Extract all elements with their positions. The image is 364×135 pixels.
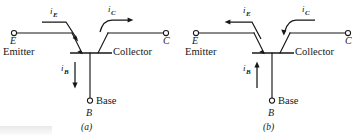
- collector-slant-b: [280, 33, 290, 53]
- diagram-panel-a: iE iC iB E Emitter C Collector Base B (a…: [0, 0, 182, 135]
- panel-caption-b: (b): [263, 122, 274, 133]
- base-terminal-circle-a: [87, 98, 92, 103]
- collector-letter-b: C: [345, 35, 352, 46]
- diagram-panel-b: iE iC iB E Emitter C Collector Base B (b…: [182, 0, 364, 135]
- current-arrowhead-ie-b: [225, 19, 231, 24]
- current-subscript-ic-b: C: [305, 9, 310, 17]
- current-arrow-ie-a: [42, 22, 77, 39]
- current-arrow-ic-b: [285, 20, 315, 31]
- current-subscript-ie-b: E: [245, 10, 251, 18]
- base-word-a: Base: [96, 95, 117, 106]
- page-edge-artifact: [0, 126, 52, 135]
- current-subscript-ib-a: B: [63, 68, 69, 76]
- emitter-word-a: Emitter: [3, 46, 35, 57]
- panel-a-svg: iE iC iB E Emitter C Collector Base B (a…: [0, 0, 182, 135]
- base-letter-a: B: [86, 107, 92, 118]
- panel-b-svg: iE iC iB E Emitter C Collector Base B (b…: [182, 0, 364, 135]
- base-letter-b: B: [268, 107, 274, 118]
- emitter-word-b: Emitter: [185, 46, 217, 57]
- current-arrowhead-ib-b: [254, 62, 259, 68]
- transistor-current-figure: iE iC iB E Emitter C Collector Base B (a…: [0, 0, 364, 135]
- collector-word-a: Collector: [113, 46, 153, 57]
- base-terminal-circle-b: [269, 98, 274, 103]
- collector-slant-a: [98, 33, 108, 53]
- current-label-ie-a: iE: [50, 6, 58, 19]
- current-subscript-ib-b: B: [245, 68, 251, 76]
- current-label-ic-b: iC: [302, 4, 310, 17]
- collector-letter-a: C: [163, 35, 170, 46]
- current-label-ic-a: iC: [108, 4, 116, 17]
- base-word-b: Base: [278, 95, 299, 106]
- current-label-ib-a: iB: [61, 63, 69, 76]
- current-arrow-ic-a: [100, 20, 129, 32]
- collector-word-b: Collector: [295, 46, 335, 57]
- current-arrowhead-ib-a: [72, 83, 77, 89]
- current-label-ib-b: iB: [243, 63, 251, 76]
- emitter-slant-a: [72, 33, 82, 53]
- emitter-letter-a: E: [9, 35, 16, 46]
- emitter-letter-b: E: [191, 35, 198, 46]
- current-label-ie-b: iE: [243, 5, 251, 18]
- current-arrowhead-ic-b: [281, 29, 286, 35]
- current-arrowhead-ic-a: [128, 17, 134, 22]
- current-subscript-ic-a: C: [111, 9, 116, 17]
- panel-caption-a: (a): [81, 122, 92, 133]
- current-subscript-ie-a: E: [52, 11, 58, 19]
